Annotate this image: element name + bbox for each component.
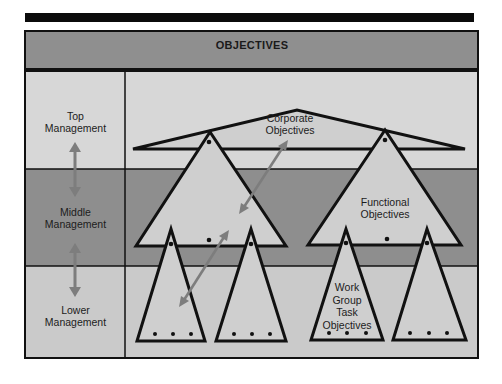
- level-label-top: Top Management: [26, 110, 125, 134]
- functional-objectives-label: Functional Objectives: [340, 196, 430, 220]
- work-group-task-objectives-label: Work Group Task Objectives: [311, 281, 383, 331]
- corporate-objectives-label: Corporate Objectives: [250, 112, 330, 136]
- level-label-lower: Lower Management: [26, 304, 125, 328]
- level-label-middle: Middle Management: [26, 206, 125, 230]
- page-title: OBJECTIVES: [26, 39, 478, 51]
